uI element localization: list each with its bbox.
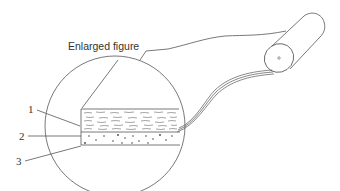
magnified-circle: [45, 56, 185, 191]
fiber-texture: [84, 112, 177, 130]
diagram-canvas: Enlarged figure 1 2 3: [0, 0, 340, 191]
material-strip: [177, 70, 274, 132]
callout-2-label: 2: [19, 130, 25, 142]
roll-axle-icon: [278, 57, 280, 59]
callout-3-label: 3: [16, 155, 22, 167]
callout-1-label: 1: [28, 103, 34, 115]
enlarged-figure-leader: [82, 60, 118, 108]
layer-cross-section: [81, 109, 180, 145]
roll-outline-connector: [140, 31, 286, 60]
material-roll: [259, 13, 325, 78]
enlarged-figure-label: Enlarged figure: [68, 40, 139, 52]
callout-1-leader: [37, 110, 80, 126]
particle-dots: [84, 134, 173, 144]
